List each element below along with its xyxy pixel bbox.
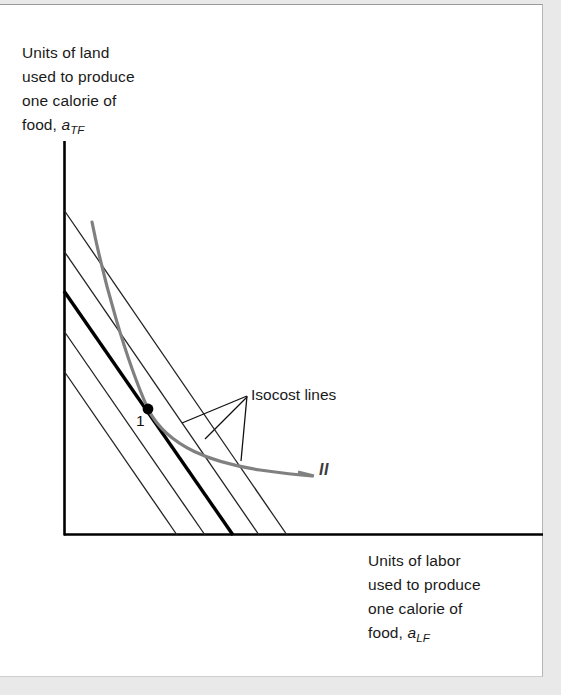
y-axis-caption-line3: one calorie of: [22, 92, 116, 109]
tangency-point-label: 1: [136, 412, 145, 430]
y-axis-caption-line1: Units of land: [22, 44, 109, 61]
isoquant-curve-II: [92, 222, 312, 476]
isocost-lines-group: [64, 210, 259, 535]
isocost-line-2: [64, 251, 259, 535]
isocost-leader-b: [241, 396, 247, 461]
isocost-line-4: [64, 331, 205, 535]
isocost-line-5: [64, 371, 177, 535]
isocost-leader-c: [205, 397, 247, 439]
x-axis-caption-line1: Units of labor: [368, 552, 461, 569]
y-axis-variable-subscript: TF: [70, 124, 84, 136]
y-axis-caption-line4-prefix: food,: [22, 116, 61, 133]
y-axis-caption: Units of land used to produce one calori…: [22, 41, 135, 142]
x-axis-variable-subscript: LF: [416, 632, 430, 644]
x-axis-caption: Units of labor used to produce one calor…: [368, 549, 481, 650]
x-axis-caption-line2: used to produce: [368, 576, 481, 593]
y-axis-caption-line2: used to produce: [22, 68, 135, 85]
isoquant-curve-label: II: [319, 461, 329, 479]
x-axis-caption-line4-prefix: food,: [368, 624, 407, 641]
isocost-line-1: [64, 210, 232, 455]
isocost-leader-a: [182, 396, 247, 423]
y-axis-variable: a: [61, 116, 70, 133]
figure-root: Units of land used to produce one calori…: [0, 0, 561, 695]
isocost-lines-annotation: Isocost lines: [251, 386, 336, 404]
x-axis-variable: a: [407, 624, 416, 641]
x-axis-caption-line3: one calorie of: [368, 600, 462, 617]
